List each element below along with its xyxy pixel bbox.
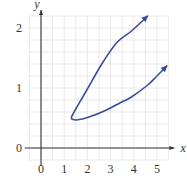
y-tick-label: 1 — [16, 81, 22, 95]
x-tick-label: 2 — [84, 162, 90, 176]
x-tick-label: 3 — [108, 162, 114, 176]
series-line — [71, 16, 167, 120]
x-axis-label: x — [179, 141, 186, 155]
y-tick-label: 2 — [16, 21, 22, 35]
grid — [29, 16, 168, 160]
chart: 012345012xy — [0, 0, 187, 185]
series-group — [71, 16, 167, 120]
x-tick-label: 5 — [154, 162, 160, 176]
y-tick-label: 0 — [16, 141, 22, 155]
x-tick-label: 4 — [131, 162, 137, 176]
x-tick-label: 1 — [61, 162, 67, 176]
x-tick-label: 0 — [38, 162, 44, 176]
y-axis-label: y — [33, 0, 40, 11]
